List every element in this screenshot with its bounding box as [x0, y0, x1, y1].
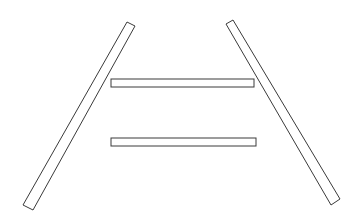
bars-drawing [0, 0, 356, 219]
lower-horizontal-bar [111, 138, 256, 146]
diagram-canvas [0, 0, 356, 219]
right-slanted-bar [226, 20, 340, 205]
left-slanted-bar [23, 22, 135, 210]
upper-horizontal-bar [111, 79, 254, 87]
